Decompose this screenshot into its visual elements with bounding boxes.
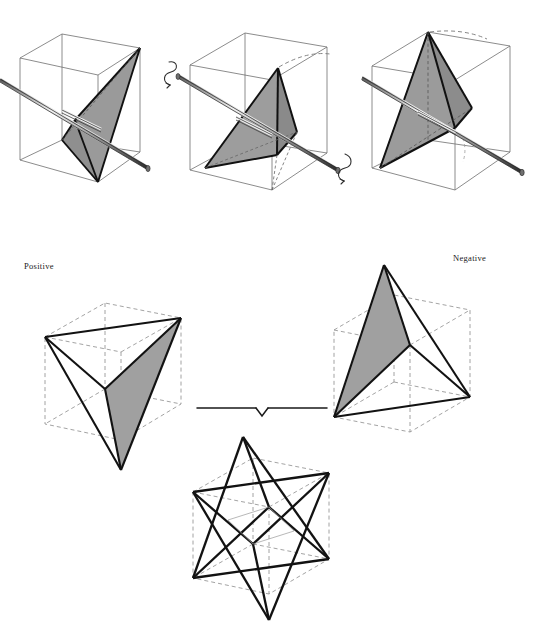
figure-root: Positive Negative <box>0 0 536 621</box>
label-positive: Positive <box>24 262 54 271</box>
geometry-figure-svg <box>0 0 536 621</box>
label-negative: Negative <box>453 254 486 263</box>
